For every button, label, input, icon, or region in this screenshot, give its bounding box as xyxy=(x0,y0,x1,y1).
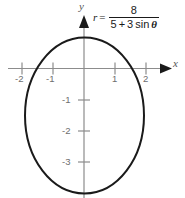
equation-equals-sign: = xyxy=(99,12,105,23)
y-axis-label: y xyxy=(79,1,84,12)
x-axis-label: x xyxy=(173,58,178,69)
x-tick-label-1: 1 xyxy=(112,74,117,84)
x-tick-label-minus2: -2 xyxy=(15,74,23,84)
x-tick-label-2: 2 xyxy=(143,74,148,84)
polar-graph-figure: -2 -1 1 2 -1 -2 -3 x y r = 8 5+3sinθ xyxy=(0,0,185,198)
equation-fraction: 8 5+3sinθ xyxy=(109,5,159,30)
x-tick-label-minus1: -1 xyxy=(46,74,54,84)
y-tick-label-minus2: -2 xyxy=(62,126,70,136)
denominator-theta-symbol: θ xyxy=(151,18,157,30)
y-tick-label-minus3: -3 xyxy=(62,157,70,167)
denominator-term-3: 3 xyxy=(127,18,133,30)
equation-annotation: r = 8 5+3sinθ xyxy=(93,5,159,30)
denominator-sin-function: sin xyxy=(135,18,149,30)
denominator-term-5: 5 xyxy=(111,18,117,30)
denominator-plus-sign: + xyxy=(119,18,125,30)
y-tick-label-minus1: -1 xyxy=(62,95,70,105)
equation-numerator: 8 xyxy=(127,5,141,17)
equation-lhs: r xyxy=(93,12,97,23)
equation-denominator: 5+3sinθ xyxy=(109,18,159,30)
y-axis-arrow-icon xyxy=(79,15,89,28)
x-axis-arrow-icon xyxy=(160,64,172,74)
